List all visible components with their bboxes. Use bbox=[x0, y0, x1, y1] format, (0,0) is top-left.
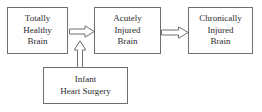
node-infant-heart-surgery: Infant Heart Surgery bbox=[43, 67, 128, 104]
node-label-line: Infant bbox=[75, 74, 97, 86]
node-label-line: Brain bbox=[28, 36, 48, 48]
node-totally-healthy-brain: Totally Healthy Brain bbox=[7, 7, 68, 54]
arrow-acute-to-chronic-icon bbox=[161, 26, 189, 39]
node-acutely-injured-brain: Acutely Injured Brain bbox=[94, 7, 161, 54]
node-label-line: Healthy bbox=[23, 25, 52, 37]
diagram-canvas: Totally Healthy Brain Acutely Injured Br… bbox=[0, 0, 262, 112]
node-label-line: Heart Surgery bbox=[60, 86, 111, 98]
arrow-healthy-to-acute-icon bbox=[69, 25, 95, 38]
node-label-line: Brain bbox=[118, 36, 138, 48]
node-label-line: Injured bbox=[115, 25, 141, 37]
node-label-line: Acutely bbox=[113, 13, 142, 25]
node-label-line: Totally bbox=[25, 13, 50, 25]
node-label-line: Injured bbox=[208, 25, 234, 37]
node-label-line: Chronically bbox=[199, 13, 242, 25]
node-label-line: Brain bbox=[211, 36, 231, 48]
node-chronically-injured-brain: Chronically Injured Brain bbox=[188, 7, 253, 54]
arrow-surgery-to-acute-icon bbox=[73, 40, 87, 68]
